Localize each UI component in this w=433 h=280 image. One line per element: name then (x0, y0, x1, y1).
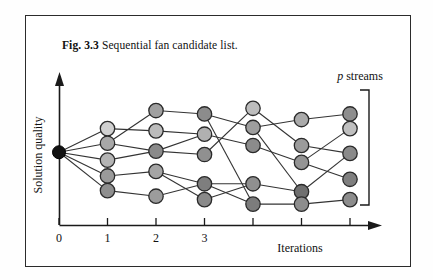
x-axis-tick-label: 1 (105, 231, 111, 245)
candidate-node (149, 189, 163, 203)
candidate-node (343, 146, 357, 160)
candidate-node (246, 197, 260, 211)
candidate-node (294, 197, 308, 211)
candidate-node (294, 138, 308, 152)
candidate-node (343, 121, 357, 135)
candidate-node (343, 172, 357, 186)
candidate-node (149, 144, 163, 158)
candidate-node (246, 101, 260, 115)
candidate-node (197, 177, 211, 191)
candidate-node (294, 112, 308, 126)
candidate-node (294, 155, 308, 169)
candidate-node (149, 164, 163, 178)
candidate-node (343, 192, 357, 206)
candidate-node (197, 192, 211, 206)
edge (302, 153, 351, 191)
candidate-node (149, 103, 163, 117)
x-axis-tick-label: 2 (153, 231, 159, 245)
candidate-node (100, 183, 114, 197)
y-axis-label: Solution quality (31, 116, 45, 193)
candidate-node (197, 127, 211, 141)
candidate-node (100, 136, 114, 150)
candidate-node (100, 153, 114, 167)
candidate-node (246, 138, 260, 152)
candidate-node (100, 121, 114, 135)
x-axis-label: Iterations (277, 241, 323, 255)
candidate-node (197, 147, 211, 161)
candidate-node (343, 107, 357, 121)
candidate-node (197, 107, 211, 121)
candidate-node (246, 120, 260, 134)
candidate-node (149, 124, 163, 138)
x-axis-ticks (59, 218, 350, 225)
root-node (53, 146, 66, 159)
sequential-fan-diagram: 0123 Solution quality Iterations p strea… (0, 0, 433, 280)
figure-page: Fig. 3.3 Sequential fan candidate list. … (0, 0, 433, 280)
x-axis-tick-labels: 0123 (56, 231, 208, 245)
x-axis-tick-label: 0 (56, 231, 62, 245)
p-streams-label: p streams (336, 69, 383, 83)
x-axis-tick-label: 3 (202, 231, 208, 245)
candidate-node (100, 169, 114, 183)
candidate-node (246, 177, 260, 191)
p-streams-bracket (360, 90, 369, 205)
